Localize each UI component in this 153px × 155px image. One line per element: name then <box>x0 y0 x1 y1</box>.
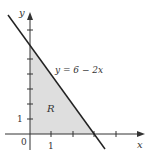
x-axis-label: x <box>137 139 143 150</box>
y-tick-label-1: 1 <box>17 114 23 124</box>
x-tick-label-1: 1 <box>48 141 54 151</box>
origin-label: 0 <box>21 137 27 147</box>
y-axis-arrow-icon <box>27 12 33 20</box>
line-equation-label: y = 6 − 2x <box>54 65 103 75</box>
y-axis-label: y <box>18 7 25 18</box>
region-label: R <box>46 103 55 114</box>
x-axis-arrow-icon <box>137 131 145 137</box>
graph: y x 0 1 1 y = 6 − 2x R <box>0 0 153 155</box>
